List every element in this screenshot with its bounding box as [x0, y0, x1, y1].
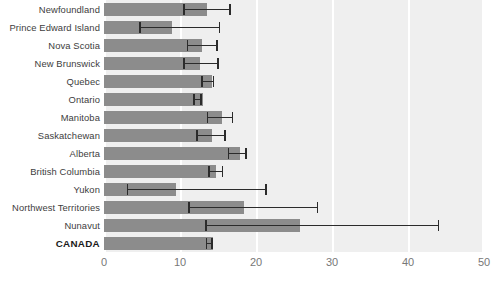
- x-tick-label: 0: [101, 256, 107, 268]
- gridline: [256, 0, 258, 252]
- error-bar-cap-high: [229, 4, 231, 15]
- x-tick-label: 50: [478, 256, 490, 268]
- error-bar-line: [228, 153, 247, 154]
- error-bar-line: [183, 9, 231, 10]
- error-bar: [196, 130, 226, 141]
- error-bar-cap-low: [208, 166, 210, 177]
- error-bar: [183, 4, 231, 15]
- error-bar: [206, 238, 213, 249]
- error-bar: [201, 76, 214, 87]
- error-bar: [188, 202, 318, 213]
- category-label: New Brunswick: [0, 58, 100, 69]
- gridline: [482, 0, 484, 252]
- error-bar-cap-high: [222, 166, 224, 177]
- error-bar-cap-high: [438, 220, 440, 231]
- error-bar-cap-high: [217, 58, 219, 69]
- error-bar-cap-low: [183, 4, 185, 15]
- error-bar-cap-low: [228, 148, 230, 159]
- bar: [104, 237, 213, 250]
- error-bar-cap-low: [139, 22, 141, 33]
- error-bar-cap-high: [216, 40, 218, 51]
- error-bar-cap-high: [219, 22, 221, 33]
- category-label: Quebec: [0, 76, 100, 87]
- bar: [104, 147, 240, 160]
- error-bar: [183, 58, 219, 69]
- error-bar-cap-low: [127, 184, 129, 195]
- error-bar-cap-low: [187, 40, 189, 51]
- category-label: Ontario: [0, 94, 100, 105]
- category-label: Nunavut: [0, 220, 100, 231]
- category-label: Nova Scotia: [0, 40, 100, 51]
- error-bar-line: [188, 207, 318, 208]
- error-bar-cap-high: [213, 76, 215, 87]
- error-bar-cap-high: [232, 112, 234, 123]
- error-bar-cap-low: [183, 58, 185, 69]
- error-bar-cap-high: [245, 148, 247, 159]
- x-tick-label: 20: [250, 256, 262, 268]
- bar: [104, 165, 216, 178]
- error-bar: [228, 148, 247, 159]
- category-label: Yukon: [0, 184, 100, 195]
- error-bar-line: [139, 27, 220, 28]
- error-bar-cap-low: [188, 202, 190, 213]
- gridline: [408, 0, 410, 252]
- bar: [104, 75, 212, 88]
- error-bar: [127, 184, 267, 195]
- plot-panel: [104, 0, 484, 252]
- x-tick-label: 10: [174, 256, 186, 268]
- category-label: Manitoba: [0, 112, 100, 123]
- error-bar-cap-low: [207, 112, 209, 123]
- error-bar: [193, 94, 202, 105]
- error-bar-line: [207, 117, 234, 118]
- category-label: British Columbia: [0, 166, 100, 177]
- error-bar-cap-high: [265, 184, 267, 195]
- category-label: Prince Edward Island: [0, 22, 100, 33]
- error-bar-cap-low: [196, 130, 198, 141]
- error-bar-cap-low: [193, 94, 195, 105]
- category-label: Saskatchewan: [0, 130, 100, 141]
- category-label: CANADA: [0, 238, 100, 249]
- category-label: Newfoundland: [0, 4, 100, 15]
- x-tick-label: 40: [402, 256, 414, 268]
- error-bar: [139, 22, 220, 33]
- error-bar: [205, 220, 439, 231]
- bar: [104, 93, 203, 106]
- error-bar: [207, 112, 234, 123]
- category-label: Northwest Territories: [0, 202, 100, 213]
- bar-chart: NewfoundlandPrince Edward IslandNova Sco…: [0, 0, 495, 286]
- error-bar: [187, 40, 218, 51]
- x-tick-label: 30: [326, 256, 338, 268]
- category-label: Alberta: [0, 148, 100, 159]
- error-bar-line: [205, 225, 439, 226]
- bar: [104, 111, 222, 124]
- x-axis: 01020304050: [104, 254, 484, 276]
- category-label-column: NewfoundlandPrince Edward IslandNova Sco…: [0, 0, 100, 252]
- error-bar-line: [127, 189, 267, 190]
- error-bar-cap-high: [224, 130, 226, 141]
- error-bar-cap-low: [201, 76, 203, 87]
- error-bar-cap-high: [211, 238, 213, 249]
- error-bar-line: [196, 135, 226, 136]
- error-bar-cap-low: [206, 238, 208, 249]
- gridline: [332, 0, 334, 252]
- error-bar-cap-high: [200, 94, 202, 105]
- error-bar-line: [183, 63, 219, 64]
- error-bar-cap-high: [317, 202, 319, 213]
- error-bar: [208, 166, 223, 177]
- error-bar-line: [187, 45, 218, 46]
- error-bar-cap-low: [205, 220, 207, 231]
